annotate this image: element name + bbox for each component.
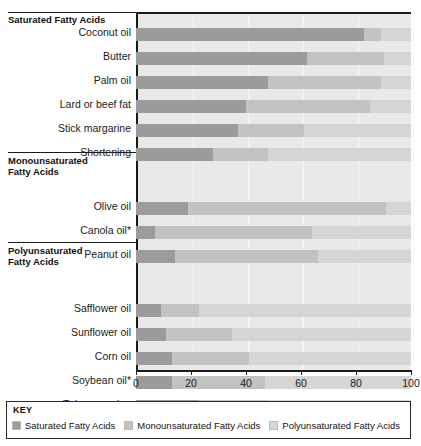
legend-swatch-poly [269, 421, 278, 430]
legend-items: Saturated Fatty AcidsMonounsaturated Fat… [12, 420, 406, 431]
category-label: Soybean oil* [0, 374, 131, 386]
category-label: Shortening [0, 146, 131, 158]
x-tick-label: 60 [295, 377, 307, 389]
legend-box: KEY Saturated Fatty AcidsMonounsaturated… [6, 401, 411, 439]
x-tick-label: 100 [402, 377, 420, 389]
x-tick [301, 370, 302, 375]
x-tick [136, 370, 137, 375]
x-tick [191, 370, 192, 375]
category-label: Coconut oil [0, 26, 131, 38]
x-tick-label: 20 [185, 377, 197, 389]
category-label: Olive oil [0, 200, 131, 212]
legend-swatch-mono [124, 421, 133, 430]
x-tick [356, 370, 357, 375]
group-rule-saturated [8, 12, 136, 13]
legend-label: Saturated Fatty Acids [25, 420, 115, 431]
category-label: Butter [0, 50, 131, 62]
legend-label: Monounsaturated Fatty Acids [137, 420, 260, 431]
x-tick-label: 40 [240, 377, 252, 389]
legend-item: Saturated Fatty Acids [12, 420, 115, 431]
chart-root: Saturated Fatty Acids Monounsaturated Fa… [0, 0, 421, 446]
x-axis-line [136, 370, 411, 372]
category-label: Safflower oil [0, 302, 131, 314]
category-label: Stick margarine [0, 122, 131, 134]
group-heading-monounsaturated-line2: Fatty Acids [8, 166, 59, 177]
x-tick-label: 0 [133, 377, 139, 389]
category-label: Sunflower oil [0, 326, 131, 338]
category-label: Palm oil [0, 74, 131, 86]
category-label: Lard or beef fat [0, 98, 131, 110]
x-tick [411, 370, 412, 375]
legend-item: Polyunsaturated Fatty Acids [269, 420, 400, 431]
category-label: Canola oil* [0, 224, 131, 236]
category-label: Peanut oil [0, 248, 131, 260]
group-heading-saturated: Saturated Fatty Acids [8, 14, 105, 25]
legend-label: Polyunsaturated Fatty Acids [282, 420, 400, 431]
x-tick [246, 370, 247, 375]
x-tick-label: 80 [350, 377, 362, 389]
group-rule-polyunsaturated [8, 242, 136, 243]
legend-item: Monounsaturated Fatty Acids [124, 420, 260, 431]
legend-title: KEY [13, 405, 32, 415]
category-label: Corn oil [0, 350, 131, 362]
legend-swatch-sat [12, 421, 21, 430]
